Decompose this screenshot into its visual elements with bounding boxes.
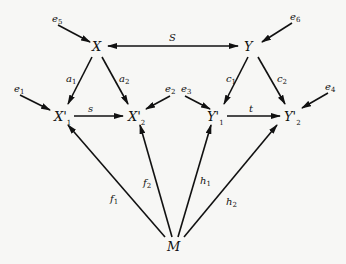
edge-label-h1: h1: [200, 175, 211, 188]
edge-label-c1: c1: [226, 73, 236, 86]
edge-e6-arrow: [262, 23, 292, 42]
edge-label-f1: f1: [109, 193, 118, 206]
edge-h2-arrow: [184, 125, 277, 237]
edge-f1-arrow: [68, 125, 165, 237]
node-X: X: [91, 39, 102, 54]
error-e4: e4: [325, 81, 336, 94]
edge-label-a2: a2: [119, 73, 129, 86]
edge-label-h2: h2: [226, 196, 237, 209]
error-e6: e6: [290, 11, 301, 24]
edge-e1-arrow: [20, 95, 50, 110]
node-Y1: Y'1: [207, 109, 224, 127]
error-e2: e2: [165, 83, 175, 96]
edge-e3-arrow: [185, 96, 210, 109]
edge-label-t: t: [249, 103, 254, 114]
error-e5: e5: [52, 13, 62, 26]
edge-label-s: s: [88, 103, 93, 114]
error-e1: e1: [14, 83, 24, 96]
edge-e2-arrow: [146, 96, 170, 109]
edge-label-c2: c2: [277, 73, 287, 86]
node-M: M: [166, 239, 181, 254]
error-e3: e3: [181, 83, 191, 96]
node-X1: X'1: [53, 109, 71, 127]
node-X2: X'2: [127, 109, 145, 127]
diagram-svg: X Y X'1 X'2 Y'1 Y'2 M e5 e6 e1 e2 e3 e4 …: [0, 0, 346, 264]
path-diagram: X Y X'1 X'2 Y'1 Y'2 M e5 e6 e1 e2 e3 e4 …: [0, 0, 346, 264]
edge-label-a1: a1: [66, 73, 76, 86]
edge-e5-arrow: [58, 25, 90, 42]
node-Y2: Y'2: [284, 109, 301, 127]
edge-label-f2: f2: [142, 177, 151, 190]
node-Y: Y: [244, 39, 254, 54]
edge-label-S: S: [169, 32, 176, 43]
edge-e4-arrow: [302, 93, 328, 108]
